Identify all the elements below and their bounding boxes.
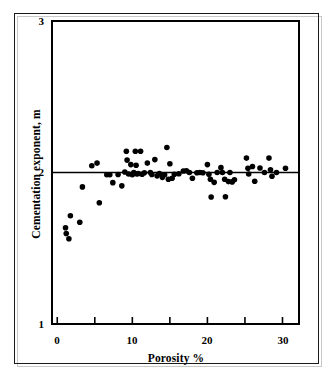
scatter-point xyxy=(110,180,116,186)
x-tick-label-10: 10 xyxy=(120,334,144,346)
scatter-point xyxy=(80,184,86,190)
scatter-point xyxy=(124,157,130,163)
x-tick-label-20: 20 xyxy=(195,334,219,346)
scatter-point xyxy=(119,183,125,189)
scatter-point xyxy=(220,170,226,176)
scatter-point xyxy=(124,148,130,154)
scatter-point xyxy=(274,170,280,176)
y-tick-label-1: 1 xyxy=(28,318,44,330)
scatter-point xyxy=(162,172,168,178)
scatter-point xyxy=(107,172,113,178)
scatter-point xyxy=(218,165,224,171)
scatter-point xyxy=(115,172,121,178)
x-tick-label-30: 30 xyxy=(271,334,295,346)
scatter-point xyxy=(214,170,220,176)
y-axis-title: Cementation exponent, m xyxy=(30,74,42,274)
scatter-point xyxy=(223,194,229,200)
scatter-point xyxy=(142,170,148,176)
x-axis-title: Porosity % xyxy=(52,352,300,364)
x-tick-label-0: 0 xyxy=(45,334,69,346)
scatter-point xyxy=(266,155,272,161)
scatter-point xyxy=(246,171,252,177)
scatter-point xyxy=(269,173,275,179)
scatter-point xyxy=(250,164,256,170)
scatter-point xyxy=(66,236,72,242)
scatter-point xyxy=(205,162,211,168)
scatter-plot xyxy=(0,0,333,379)
scatter-point xyxy=(133,162,139,168)
scatter-point xyxy=(152,157,158,163)
scatter-point xyxy=(167,161,173,167)
scatter-point xyxy=(187,170,193,176)
scatter-point xyxy=(138,148,144,154)
scatter-point xyxy=(190,175,196,181)
figure-canvas: 3 2 1 0 10 20 30 Cementation exponent, m… xyxy=(0,0,333,379)
scatter-point xyxy=(268,167,274,173)
scatter-point xyxy=(244,155,250,161)
scatter-point xyxy=(206,172,212,178)
scatter-point xyxy=(89,163,95,169)
scatter-point xyxy=(97,200,103,206)
scatter-point xyxy=(128,162,134,168)
scatter-point xyxy=(262,170,268,176)
scatter-point xyxy=(63,231,69,237)
scatter-point xyxy=(208,194,214,200)
scatter-point xyxy=(77,219,83,225)
scatter-point xyxy=(149,172,155,178)
scatter-point xyxy=(145,160,151,166)
scatter-point xyxy=(252,178,258,184)
scatter-point xyxy=(94,160,100,166)
scatter-point xyxy=(200,170,206,176)
scatter-point xyxy=(227,170,233,176)
scatter-point xyxy=(68,213,74,219)
scatter-point xyxy=(63,225,69,231)
scatter-point xyxy=(164,145,170,151)
scatter-point xyxy=(232,177,238,183)
y-tick-label-3: 3 xyxy=(28,15,44,27)
scatter-point xyxy=(211,180,217,186)
scatter-point xyxy=(257,165,263,171)
scatter-point xyxy=(133,148,139,154)
scatter-point xyxy=(283,165,289,171)
